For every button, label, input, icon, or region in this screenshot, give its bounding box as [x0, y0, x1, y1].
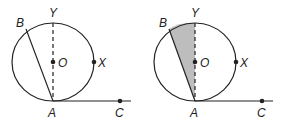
point-x: [234, 60, 239, 65]
label-b: B: [16, 16, 24, 30]
label-x: X: [97, 56, 107, 70]
point-c: [118, 99, 123, 104]
label-b: B: [159, 16, 167, 30]
point-o: [193, 60, 198, 65]
label-c: C: [115, 106, 124, 120]
label-o: O: [58, 56, 67, 70]
point-o: [51, 60, 56, 65]
label-a: A: [47, 106, 56, 120]
figure-right: B Y O X A C: [154, 6, 273, 120]
label-c: C: [257, 106, 266, 120]
label-x: X: [239, 56, 249, 70]
label-a: A: [189, 106, 198, 120]
label-y: Y: [49, 6, 58, 20]
chord-ab: [26, 29, 53, 101]
figure-left: B Y O X A C: [12, 6, 131, 120]
diagram-canvas: B Y O X A C B Y O X A C: [0, 0, 282, 123]
point-c: [260, 99, 265, 104]
label-y: Y: [191, 6, 200, 20]
label-o: O: [200, 56, 209, 70]
point-x: [92, 60, 97, 65]
